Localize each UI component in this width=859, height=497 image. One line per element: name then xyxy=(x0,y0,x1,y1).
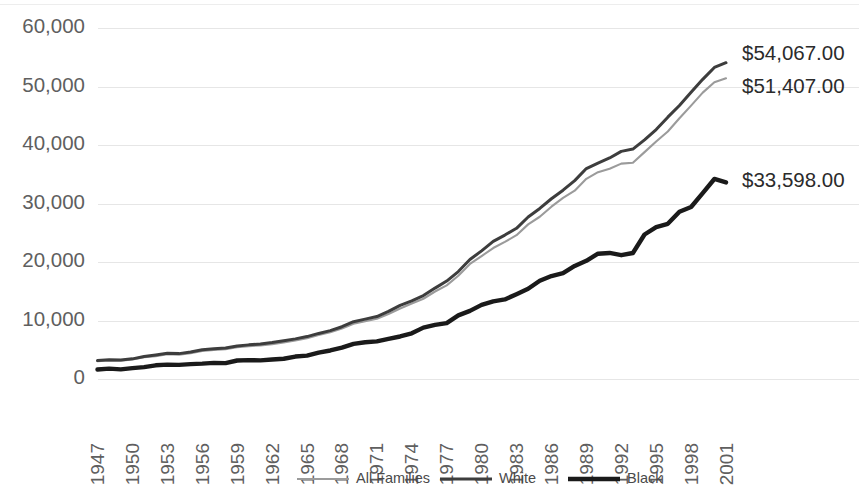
x-tick-label: 1998 xyxy=(681,443,702,485)
y-tick-label: 10,000 xyxy=(22,307,85,330)
endpoint-label-black: $33,598.00 xyxy=(742,168,845,191)
endpoint-label-white: $54,067.00 xyxy=(742,41,845,64)
x-tick-label: 1986 xyxy=(541,443,562,485)
x-tick-label: 1950 xyxy=(122,443,143,485)
endpoint-label-all-families: $51,407.00 xyxy=(742,74,845,97)
legend-label-all-families: All Families xyxy=(356,470,430,486)
y-tick-label: 30,000 xyxy=(22,190,85,213)
series-line-white xyxy=(98,63,727,361)
legend-label-black: Black xyxy=(627,470,663,486)
y-axis-tick-labels: 010,00020,00030,00040,00050,00060,000 xyxy=(22,14,85,388)
y-tick-label: 0 xyxy=(74,365,85,388)
y-tick-label: 60,000 xyxy=(22,14,85,37)
x-tick-label: 1953 xyxy=(157,443,178,485)
x-tick-label: 1956 xyxy=(192,443,213,485)
x-tick-label: 2001 xyxy=(716,443,737,485)
chart-canvas: 010,00020,00030,00040,00050,00060,000 19… xyxy=(0,0,859,497)
y-tick-label: 40,000 xyxy=(22,131,85,154)
endpoint-data-labels: $51,407.00$54,067.00$33,598.00 xyxy=(742,41,845,191)
x-tick-label: 1962 xyxy=(262,443,283,485)
y-tick-label: 20,000 xyxy=(22,248,85,271)
x-tick-label: 1959 xyxy=(227,443,248,485)
series-line-all-families xyxy=(98,78,727,361)
series-line-black xyxy=(98,179,727,370)
median-family-income-line-chart: 010,00020,00030,00040,00050,00060,000 19… xyxy=(0,0,859,497)
legend-label-white: White xyxy=(499,470,536,486)
x-tick-label: 1947 xyxy=(87,443,108,485)
data-series-group xyxy=(98,63,727,370)
y-tick-label: 50,000 xyxy=(22,73,85,96)
